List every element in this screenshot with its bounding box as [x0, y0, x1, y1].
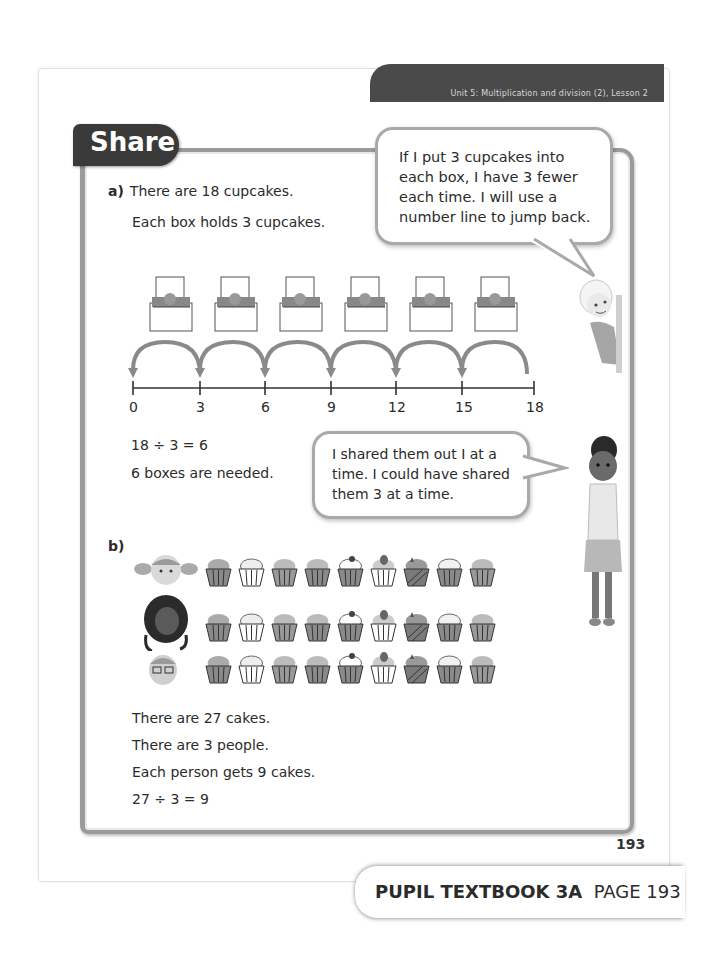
footer-page: PAGE 193: [594, 881, 681, 902]
boy-character-illustration: [574, 275, 634, 375]
cupcake-icon: [402, 555, 431, 587]
footer-book: PUPIL TEXTBOOK 3A: [375, 881, 582, 902]
cupcake-icon: [402, 610, 431, 642]
tick-label-9: 9: [327, 399, 336, 415]
bubble-top-line1: If I put 3 cupcakes into: [399, 147, 590, 167]
part-b-line2: There are 3 people.: [132, 737, 269, 753]
bubble-middle-line2: time. I could have shared: [332, 464, 510, 484]
bubble-top-line3: each time. I will use a: [399, 187, 590, 207]
part-a-line1: There are 18 cupcakes.: [130, 183, 294, 199]
cupcake-icon: [270, 555, 299, 587]
tick-label-0: 0: [129, 399, 138, 415]
speech-bubble-middle: I shared them out I at a time. I could h…: [312, 431, 530, 519]
cupcake-icon: [468, 610, 497, 642]
face-boy-glasses: [146, 652, 180, 686]
tick-label-6: 6: [261, 399, 270, 415]
section-tab-label: Share: [90, 127, 175, 157]
cupcake-icon: [237, 555, 266, 587]
cupcake-icon: [303, 555, 332, 587]
cupcake-icon: [270, 610, 299, 642]
cupcake-icon: [468, 555, 497, 587]
tick-label-3: 3: [196, 399, 205, 415]
cupcake-icon: [237, 652, 266, 684]
part-b-line1: There are 27 cakes.: [132, 710, 270, 726]
cupcake-icon: [336, 555, 365, 587]
part-b-line3: Each person gets 9 cakes.: [132, 764, 315, 780]
cupcake-icon: [435, 610, 464, 642]
girl-character-illustration: [578, 432, 626, 632]
cupcake-icon: [204, 610, 233, 642]
arrowheads: [128, 368, 467, 378]
cupcake-icon: [336, 652, 365, 684]
bubble-top-line4: number line to jump back.: [399, 207, 590, 227]
cupcake-icon: [303, 652, 332, 684]
cupcake-icon: [435, 652, 464, 684]
tick-label-18: 18: [526, 399, 544, 415]
cupcake-icon: [270, 652, 299, 684]
section-tab-share: Share: [73, 124, 179, 166]
cupcake-icon: [237, 610, 266, 642]
speech-bubble-top: If I put 3 cupcakes into each box, I hav…: [375, 127, 613, 245]
number-line-diagram: [125, 270, 545, 420]
part-a-intro: a)There are 18 cupcakes.: [108, 183, 293, 199]
bubble-middle-line1: I shared them out I at a: [332, 444, 510, 464]
cupcake-icon: [402, 652, 431, 684]
part-a-line2: Each box holds 3 cupcakes.: [132, 214, 325, 230]
unit-banner: Unit 5: Multiplication and division (2),…: [370, 64, 664, 102]
face-girl-curly: [142, 595, 190, 651]
cupcake-icon: [369, 652, 398, 684]
bubble-top-line2: each box, I have 3 fewer: [399, 167, 590, 187]
part-a-label: a): [108, 183, 124, 199]
page-number: 193: [616, 836, 645, 852]
bubble-middle-line3: them 3 at a time.: [332, 484, 510, 504]
unit-banner-text: Unit 5: Multiplication and division (2),…: [450, 89, 648, 98]
footer-label: PUPIL TEXTBOOK 3A PAGE 193: [355, 866, 685, 918]
cupcake-row-2: [204, 610, 497, 642]
cupcake-icon: [468, 652, 497, 684]
cupcake-row-3: [204, 652, 497, 684]
cupcake-icon: [435, 555, 464, 587]
cupcake-icon: [303, 610, 332, 642]
cupcake-row-1: [204, 555, 497, 587]
cupcake-icon: [204, 555, 233, 587]
cupcake-boxes: [150, 277, 517, 331]
cupcake-icon: [204, 652, 233, 684]
part-b-label: b): [108, 538, 124, 554]
face-girl-pigtails: [133, 553, 199, 587]
part-a-equation: 18 ÷ 3 = 6: [131, 437, 208, 453]
cupcake-icon: [369, 555, 398, 587]
cupcake-icon: [336, 610, 365, 642]
part-a-conclusion: 6 boxes are needed.: [131, 465, 274, 481]
tick-label-12: 12: [388, 399, 406, 415]
part-b-equation: 27 ÷ 3 = 9: [132, 791, 209, 807]
tick-label-15: 15: [455, 399, 473, 415]
cupcake-icon: [369, 610, 398, 642]
speech-bubble-middle-tail: [521, 452, 569, 486]
number-line-axis: [133, 381, 534, 395]
